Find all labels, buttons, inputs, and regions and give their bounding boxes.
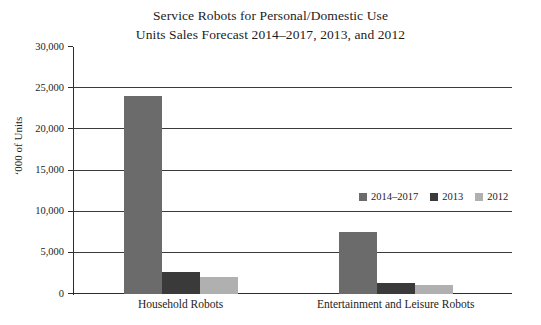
y-axis-tick-label: 20,000	[35, 124, 64, 135]
y-axis-tick-label: 25,000	[35, 83, 64, 94]
y-axis-tick-label: 15,000	[35, 165, 64, 176]
chart-title-line-2: Units Sales Forecast 2014–2017, 2013, an…	[0, 25, 541, 44]
legend-entry: 2012	[475, 191, 508, 202]
y-axis-line	[73, 47, 74, 295]
bar	[339, 232, 377, 294]
legend-swatch-icon	[359, 193, 367, 201]
legend-swatch-icon	[430, 193, 438, 201]
y-axis-tick	[68, 211, 73, 212]
legend-entry: 2013	[430, 191, 463, 202]
y-axis-tick-label: 30,000	[35, 42, 64, 53]
legend-label: 2013	[442, 191, 463, 202]
y-axis-tick-label: 5,000	[40, 248, 64, 259]
plot-area: 05,00010,00015,00020,00025,00030,000 Hou…	[73, 47, 512, 294]
y-axis-title: ‘000 of Units	[12, 86, 24, 206]
legend-label: 2014–2017	[371, 191, 418, 202]
y-axis-tick	[68, 46, 73, 47]
chart-container: Service Robots for Personal/Domestic Use…	[0, 0, 541, 325]
y-axis-tick	[68, 87, 73, 88]
bar	[415, 285, 453, 294]
bar	[200, 277, 238, 294]
chart-title: Service Robots for Personal/Domestic Use…	[0, 6, 541, 44]
gridline	[73, 87, 512, 88]
legend-swatch-icon	[475, 193, 483, 201]
bar	[377, 283, 415, 294]
legend-label: 2012	[487, 191, 508, 202]
y-axis-tick	[68, 128, 73, 129]
chart-legend: 2014–201720132012	[359, 191, 508, 202]
bar	[124, 96, 162, 294]
category-label: Entertainment and Leisure Robots	[286, 298, 506, 310]
y-axis-tick	[68, 170, 73, 171]
y-axis-tick-label: 0	[59, 289, 64, 300]
legend-entry: 2014–2017	[359, 191, 418, 202]
y-axis-tick-label: 10,000	[35, 206, 64, 217]
chart-title-line-1: Service Robots for Personal/Domestic Use	[0, 6, 541, 25]
y-axis-tick	[68, 252, 73, 253]
y-axis-tick	[68, 293, 73, 294]
bar	[162, 272, 200, 294]
category-label: Household Robots	[71, 298, 291, 310]
